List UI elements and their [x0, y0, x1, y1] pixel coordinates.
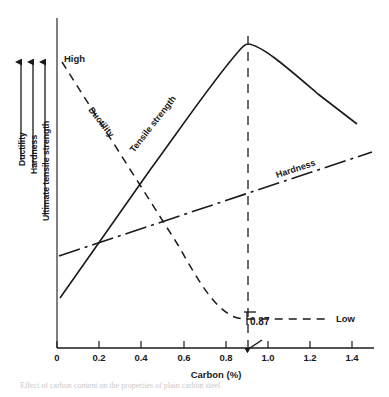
x-tick-label-4: 0.8 — [219, 352, 232, 363]
low-label: Low — [336, 313, 356, 324]
series-label-ductility: Ductility — [86, 105, 116, 139]
eutectoid-value-label: 0.87 — [250, 316, 270, 327]
x-tick-label-1: 0.2 — [92, 352, 105, 363]
axis-lines — [57, 18, 374, 348]
x-tick-label-3: 0.6 — [177, 352, 190, 363]
ductility-curve — [62, 62, 330, 319]
series-label-tensile-strength: Tensile strength — [128, 94, 178, 154]
chart-svg: Ductility Hardness Ultimate tensile stre… — [0, 0, 389, 397]
x-tick-label-5: 1.0 — [261, 352, 274, 363]
high-label: High — [64, 53, 85, 64]
x-tick-label-7: 1.4 — [345, 352, 359, 363]
figure-container: Ductility Hardness Ultimate tensile stre… — [0, 0, 389, 397]
y-axis-label-ductility: Ductility — [17, 132, 27, 166]
x-axis-tick-labels: 0 0.2 0.4 0.6 0.8 1.0 1.2 1.4 — [54, 352, 359, 363]
y-axis-arrow-group: Ductility Hardness Ultimate tensile stre… — [17, 62, 51, 221]
x-tick-label-6: 1.2 — [303, 352, 316, 363]
x-tick-label-2: 0.4 — [134, 352, 148, 363]
anno-arrow — [250, 340, 262, 348]
y-axis-label-uts: Ultimate tensile strength — [41, 121, 51, 221]
x-tick-label-0: 0 — [54, 352, 59, 363]
x-axis-ticks — [57, 341, 352, 348]
y-axis-label-hardness: Hardness — [29, 135, 39, 174]
tensile-strength-curve — [60, 44, 357, 298]
figure-caption: Effect of carbon content on the properti… — [20, 381, 380, 391]
hardness-curve — [59, 152, 372, 256]
x-axis-title: Carbon (%) — [191, 369, 242, 380]
